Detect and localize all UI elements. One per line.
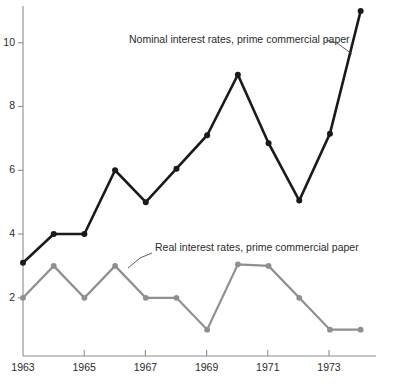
data-point — [51, 263, 57, 269]
x-tick-label-1969: 1969 — [195, 361, 219, 373]
data-point — [266, 140, 272, 146]
data-point — [327, 327, 333, 333]
series-real-markers — [20, 261, 363, 332]
data-point — [20, 295, 26, 301]
data-point — [20, 260, 26, 266]
x-tick-label-1963: 1963 — [11, 361, 35, 373]
data-point — [112, 167, 118, 173]
annotation-nominal-label: Nominal interest rates, prime commercial… — [129, 33, 350, 45]
series-real-group — [20, 261, 363, 332]
data-point — [173, 166, 179, 172]
x-tick-label-1967: 1967 — [134, 361, 158, 373]
annotation-real-leader-line — [128, 253, 152, 268]
data-point — [81, 231, 87, 237]
data-point — [235, 261, 241, 267]
data-point — [143, 295, 149, 301]
y-tick-label-2: 2 — [9, 291, 15, 303]
annotation-nominal: Nominal interest rates, prime commercial… — [129, 33, 352, 54]
y-tick-label-6: 6 — [9, 163, 15, 175]
series-nominal-group — [20, 8, 364, 266]
data-point — [174, 295, 180, 301]
axes-group — [23, 6, 376, 356]
chart-canvas: 10 8 6 4 2 1963 1965 1967 1969 1971 1973 — [0, 0, 395, 384]
data-point — [296, 198, 302, 204]
data-point — [266, 263, 272, 269]
data-point — [112, 263, 118, 269]
data-point — [235, 72, 241, 78]
data-point — [204, 132, 210, 138]
data-point — [327, 131, 333, 137]
data-point — [51, 231, 57, 237]
series-nominal-markers — [20, 8, 364, 266]
data-point — [296, 295, 302, 301]
data-point — [81, 295, 87, 301]
data-point — [143, 199, 149, 205]
data-point — [358, 327, 364, 333]
y-tick-label-10: 10 — [3, 36, 15, 48]
x-tick-label-1973: 1973 — [317, 361, 341, 373]
data-point — [204, 327, 210, 333]
y-tick-label-4: 4 — [9, 227, 15, 239]
interest-rates-line-chart: 10 8 6 4 2 1963 1965 1967 1969 1971 1973 — [0, 0, 395, 384]
annotation-real-label: Real interest rates, prime commercial pa… — [155, 241, 359, 253]
x-tick-label-1971: 1971 — [256, 361, 280, 373]
x-tick-label-1965: 1965 — [73, 361, 97, 373]
series-nominal-line — [23, 11, 361, 263]
series-real-line — [23, 264, 361, 329]
data-point — [358, 8, 364, 14]
x-ticks-group: 1963 1965 1967 1969 1971 1973 — [11, 350, 341, 373]
y-tick-label-8: 8 — [9, 99, 15, 111]
